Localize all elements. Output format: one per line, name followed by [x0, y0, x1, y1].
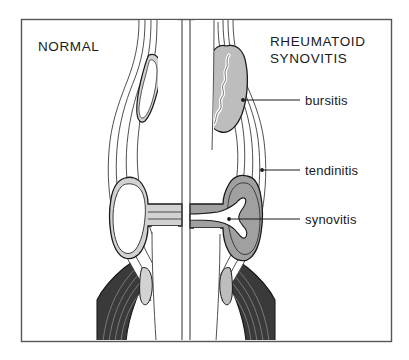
tendinitis-anchor-dot: [260, 168, 264, 172]
rheumatoid-bone-upper: [194, 20, 214, 170]
synovitis-anchor-dot: [227, 217, 231, 221]
heading-normal: NORMAL: [38, 39, 99, 54]
callout-label-bursitis: bursitis: [305, 93, 348, 108]
bursitis-anchor-dot: [241, 98, 245, 102]
figure-root: NORMAL RHEUMATOID SYNOVITIS bursitis ten…: [0, 0, 409, 360]
normal-inferior-bursa: [140, 268, 153, 305]
callout-label-tendinitis: tendinitis: [305, 163, 359, 178]
heading-rheumatoid-line2: SYNOVITIS: [270, 51, 347, 66]
rheumatoid-bone-lower: [194, 228, 220, 341]
anatomy-diagram: NORMAL RHEUMATOID SYNOVITIS bursitis ten…: [0, 0, 409, 360]
heading-rheumatoid-line1: RHEUMATOID: [270, 34, 366, 49]
normal-bone-lower: [152, 226, 178, 341]
callout-label-synovitis: synovitis: [305, 212, 357, 227]
normal-bone-upper: [158, 20, 178, 170]
rheumatoid-inferior-bursa: [220, 268, 233, 305]
